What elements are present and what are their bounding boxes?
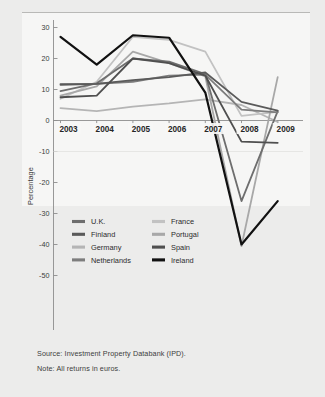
legend-label-germany: Germany <box>91 243 122 252</box>
x-tick-label: 2006 <box>168 125 187 134</box>
x-tick-label: 2004 <box>96 125 115 134</box>
y-tick-label: -10 <box>39 147 49 156</box>
legend-label-france: France <box>171 217 194 226</box>
returns-note: Note: All returns in euros. <box>37 364 120 373</box>
y-tick-label: 30 <box>42 23 50 32</box>
x-tick-label: 2003 <box>59 125 78 134</box>
plot-area: 3020100-10-20-30-40-50Percentage20032004… <box>0 0 325 340</box>
y-tick-label: -30 <box>39 209 49 218</box>
figure-container: 3020100-10-20-30-40-50Percentage20032004… <box>0 0 325 397</box>
legend-label-portugal: Portugal <box>171 230 199 239</box>
plot-background <box>22 13 310 206</box>
y-tick-label: 10 <box>42 85 50 94</box>
y-tick-label: -20 <box>39 178 49 187</box>
source-note: Source: Investment Property Databank (IP… <box>37 349 186 358</box>
y-tick-label: 20 <box>42 54 50 63</box>
x-tick-label: 2005 <box>132 125 151 134</box>
legend-label-ireland: Ireland <box>171 256 194 265</box>
legend-label-netherlands: Netherlands <box>91 256 131 265</box>
legend-label-finland: Finland <box>91 230 115 239</box>
y-tick-label: 0 <box>46 116 50 125</box>
y-tick-label: -50 <box>39 271 49 280</box>
y-axis-title: Percentage <box>26 167 35 205</box>
line-chart: 3020100-10-20-30-40-50Percentage20032004… <box>0 0 325 340</box>
y-tick-label: -40 <box>39 240 49 249</box>
x-tick-label: 2009 <box>277 125 296 134</box>
legend-label-spain: Spain <box>171 243 190 252</box>
x-tick-label: 2008 <box>240 125 259 134</box>
legend-label-uk: U.K. <box>91 217 105 226</box>
x-tick-label: 2007 <box>204 125 223 134</box>
